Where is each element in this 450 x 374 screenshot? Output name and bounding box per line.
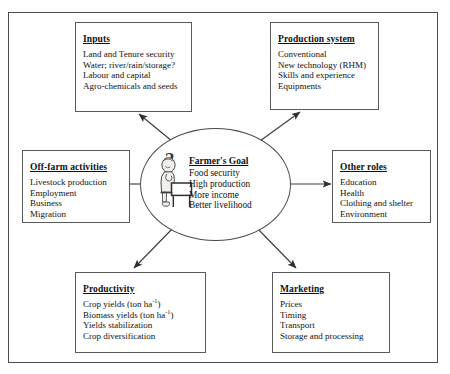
list-item: Crop yields (ton ha-1) bbox=[83, 299, 199, 310]
list-item: Agro-chemicals and seeds bbox=[83, 81, 185, 92]
list-item: Yields stabilization bbox=[83, 320, 199, 331]
list-item: Skills and experience bbox=[278, 70, 372, 81]
box-productivity: Productivity Crop yields (ton ha-1) Biom… bbox=[75, 272, 206, 353]
box-off-farm-activities-list: Livestock production Employment Business… bbox=[30, 177, 123, 219]
list-item: Food security bbox=[189, 168, 285, 179]
list-item: Labour and capital bbox=[83, 70, 185, 81]
list-item: Conventional bbox=[278, 49, 372, 60]
list-item: Timing bbox=[280, 310, 383, 321]
box-marketing-list: Prices Timing Transport Storage and proc… bbox=[280, 299, 383, 341]
list-item: More income bbox=[189, 190, 285, 201]
box-marketing: Marketing Prices Timing Transport Storag… bbox=[272, 272, 390, 353]
figure-canvas: ? Farmer's Goal Food security High produ… bbox=[0, 0, 450, 374]
box-productivity-list: Crop yields (ton ha-1) Biomass yields (t… bbox=[83, 299, 199, 341]
list-item: Education bbox=[340, 177, 424, 188]
list-item: Clothing and shelter bbox=[340, 198, 424, 209]
list-item: Migration bbox=[30, 209, 123, 220]
list-item: Better livelihood bbox=[189, 200, 285, 211]
box-production-system-list: Conventional New technology (RHM) Skills… bbox=[278, 49, 372, 91]
list-item: New technology (RHM) bbox=[278, 60, 372, 71]
box-production-system-heading: Production system bbox=[278, 34, 355, 45]
list-item: Crop diversification bbox=[83, 331, 199, 342]
box-off-farm-activities: Off-farm activities Livestock production… bbox=[22, 150, 130, 223]
list-item: High production bbox=[189, 179, 285, 190]
list-item: Transport bbox=[280, 320, 383, 331]
list-item: Business bbox=[30, 198, 123, 209]
box-other-roles-heading: Other roles bbox=[340, 162, 387, 173]
box-off-farm-activities-heading: Off-farm activities bbox=[30, 162, 107, 173]
top-scan-artifact bbox=[60, 0, 400, 6]
list-item: Livestock production bbox=[30, 177, 123, 188]
farmers-goal-list: Food security High production More incom… bbox=[189, 168, 285, 211]
box-production-system: Production system Conventional New techn… bbox=[270, 22, 379, 110]
farmers-goal-heading: Farmer's Goal bbox=[189, 156, 248, 167]
box-marketing-heading: Marketing bbox=[280, 284, 324, 295]
list-item: Prices bbox=[280, 299, 383, 310]
list-item: Environment bbox=[340, 209, 424, 220]
list-item: Storage and processing bbox=[280, 331, 383, 342]
box-inputs: Inputs Land and Tenure security Water; r… bbox=[75, 22, 192, 112]
box-inputs-heading: Inputs bbox=[83, 34, 110, 45]
box-other-roles-list: Education Health Clothing and shelter En… bbox=[340, 177, 424, 219]
list-item: Biomass yields (ton ha-1) bbox=[83, 310, 199, 321]
box-inputs-list: Land and Tenure security Water; river/ra… bbox=[83, 49, 185, 91]
list-item: Employment bbox=[30, 188, 123, 199]
list-item: Health bbox=[340, 188, 424, 199]
box-other-roles: Other roles Education Health Clothing an… bbox=[332, 150, 431, 223]
list-item: Equipments bbox=[278, 81, 372, 92]
box-productivity-heading: Productivity bbox=[83, 284, 135, 295]
farmers-goal-content: Farmer's Goal Food security High product… bbox=[189, 150, 285, 211]
list-item: Water; river/rain/storage? bbox=[83, 60, 185, 71]
list-item: Land and Tenure security bbox=[83, 49, 185, 60]
